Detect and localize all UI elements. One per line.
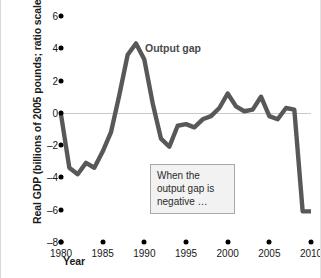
chart-figure: Real GDP (billions of 2005 pounds; ratio… — [0, 0, 321, 278]
y-tick-marker — [59, 46, 64, 51]
x-tick-label: 1995 — [175, 248, 197, 259]
y-tick-marker — [59, 143, 64, 148]
x-tick-label: 1990 — [133, 248, 155, 259]
callout-note: When the output gap is negative … — [150, 164, 235, 214]
x-tick-marker — [100, 240, 105, 245]
x-tick-label: 2000 — [217, 248, 239, 259]
x-tick-marker — [225, 240, 230, 245]
series-label: Output gap — [145, 42, 201, 54]
x-tick-label: 2005 — [258, 248, 280, 259]
x-tick-marker — [267, 240, 272, 245]
x-axis-title: Year — [63, 255, 85, 267]
y-tick-marker — [59, 110, 64, 115]
y-axis-title: Real GDP (billions of 2005 pounds; ratio… — [31, 0, 43, 228]
y-tick-marker — [59, 207, 64, 212]
x-tick-marker — [142, 240, 147, 245]
x-tick-marker — [59, 240, 64, 245]
x-tick-marker — [309, 240, 314, 245]
y-tick-marker — [59, 78, 64, 83]
x-tick-marker — [184, 240, 189, 245]
x-tick-label: 2010 — [300, 248, 321, 259]
x-tick-label: 1985 — [92, 248, 114, 259]
y-tick-marker — [59, 14, 64, 19]
y-tick-marker — [59, 175, 64, 180]
